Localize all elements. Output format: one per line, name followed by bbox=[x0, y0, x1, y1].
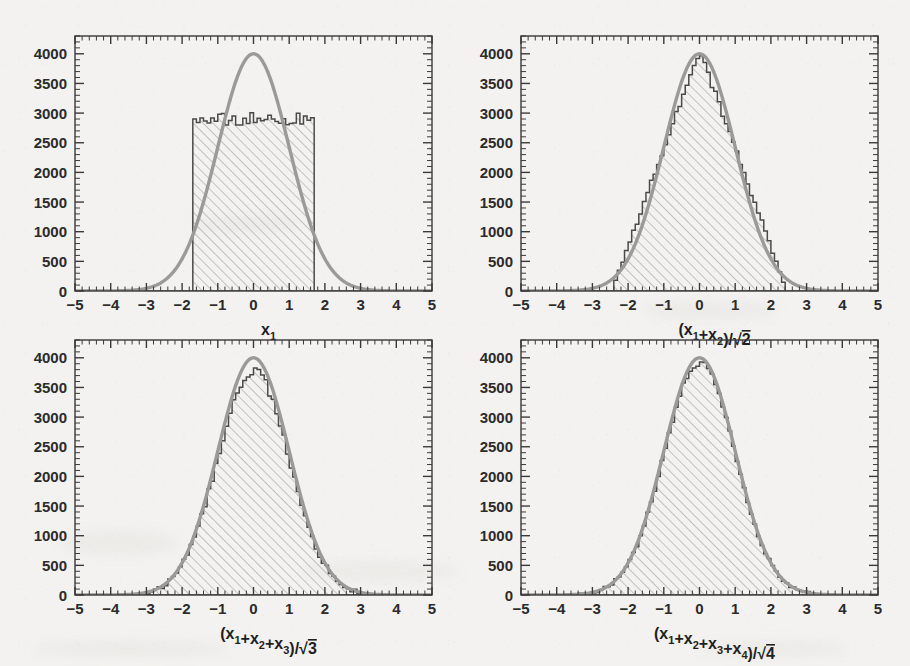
x-axis-tick-label: 5 bbox=[874, 296, 882, 313]
y-axis-tick-label: 0 bbox=[505, 587, 513, 604]
x-axis-tick-label: 5 bbox=[428, 296, 436, 313]
y-axis-tick-label: 500 bbox=[488, 557, 513, 574]
x-axis-tick-label: 5 bbox=[428, 600, 436, 617]
y-axis-tick-label: 1500 bbox=[480, 498, 513, 515]
y-axis-tick-label: 2500 bbox=[34, 438, 67, 455]
x-axis-tick-label: 1 bbox=[285, 296, 293, 313]
x-axis-tick-label: 4 bbox=[838, 600, 847, 617]
x-axis-tick-label: −1 bbox=[209, 600, 226, 617]
x-axis-tick-label: 2 bbox=[767, 296, 775, 313]
x-axis-tick-label: −5 bbox=[512, 600, 529, 617]
y-axis-tick-label: 1500 bbox=[34, 498, 67, 515]
y-axis-tick-label: 1000 bbox=[480, 223, 513, 240]
y-axis-tick-label: 2500 bbox=[34, 134, 67, 151]
y-axis-tick-label: 500 bbox=[42, 557, 67, 574]
y-axis-tick-label: 3000 bbox=[34, 105, 67, 122]
x-axis-tick-label: −3 bbox=[138, 296, 155, 313]
y-axis-tick-label: 0 bbox=[59, 587, 67, 604]
four-panel-clt-figure: −5−4−3−2−1012345050010001500200025003000… bbox=[0, 0, 910, 666]
y-axis-tick-label: 2500 bbox=[480, 134, 513, 151]
x-axis-tick-label: −4 bbox=[548, 296, 566, 313]
x-axis-tick-label: 3 bbox=[356, 600, 364, 617]
y-axis-tick-label: 1000 bbox=[34, 223, 67, 240]
y-axis-tick-label: 4000 bbox=[480, 349, 513, 366]
y-axis-tick-label: 500 bbox=[488, 253, 513, 270]
x-axis-tick-label: 1 bbox=[285, 600, 293, 617]
x-axis-tick-label: 0 bbox=[695, 296, 703, 313]
x-axis-tick-label: −4 bbox=[102, 600, 120, 617]
y-axis-tick-label: 1000 bbox=[480, 527, 513, 544]
x-axis-tick-label: 3 bbox=[802, 600, 810, 617]
x-axis-tick-label: −5 bbox=[66, 296, 83, 313]
y-axis-tick-label: 4000 bbox=[34, 349, 67, 366]
y-axis-tick-label: 2000 bbox=[34, 468, 67, 485]
x-axis-tick-label: 1 bbox=[731, 600, 739, 617]
y-axis-tick-label: 3000 bbox=[34, 409, 67, 426]
x-axis-tick-label: 0 bbox=[249, 296, 257, 313]
x-axis-tick-label: 2 bbox=[321, 600, 329, 617]
x-axis-tick-label: 3 bbox=[802, 296, 810, 313]
x-axis-tick-label: −2 bbox=[620, 296, 637, 313]
y-axis-tick-label: 0 bbox=[505, 283, 513, 300]
y-axis-tick-label: 1000 bbox=[34, 527, 67, 544]
x-axis-tick-label: −3 bbox=[584, 296, 601, 313]
x-axis-tick-label: 2 bbox=[321, 296, 329, 313]
x-axis-tick-label: −4 bbox=[548, 600, 566, 617]
x-axis-tick-label: −2 bbox=[620, 600, 637, 617]
x-axis-tick-label: −1 bbox=[655, 600, 672, 617]
x-axis-tick-label: −2 bbox=[174, 296, 191, 313]
x-axis-tick-label: 0 bbox=[249, 600, 257, 617]
y-axis-tick-label: 4000 bbox=[480, 45, 513, 62]
y-axis-tick-label: 1500 bbox=[480, 194, 513, 211]
y-axis-tick-label: 3000 bbox=[480, 105, 513, 122]
y-axis-tick-label: 3500 bbox=[480, 75, 513, 92]
x-axis-tick-label: −3 bbox=[584, 600, 601, 617]
y-axis-tick-label: 4000 bbox=[34, 45, 67, 62]
y-axis-tick-label: 3500 bbox=[480, 379, 513, 396]
x-axis-tick-label: −1 bbox=[209, 296, 226, 313]
y-axis-tick-label: 0 bbox=[59, 283, 67, 300]
x-axis-tick-label: 1 bbox=[731, 296, 739, 313]
x-axis-tick-label: −3 bbox=[138, 600, 155, 617]
x-axis-tick-label: 5 bbox=[874, 600, 882, 617]
x-axis-tick-label: −4 bbox=[102, 296, 120, 313]
x-axis-tick-label: −5 bbox=[512, 296, 529, 313]
y-axis-tick-label: 2000 bbox=[34, 164, 67, 181]
x-axis-tick-label: 4 bbox=[392, 600, 401, 617]
x-axis-tick-label: −1 bbox=[655, 296, 672, 313]
y-axis-tick-label: 2000 bbox=[480, 164, 513, 181]
x-axis-tick-label: 4 bbox=[838, 296, 847, 313]
x-axis-tick-label: −5 bbox=[66, 600, 83, 617]
y-axis-tick-label: 1500 bbox=[34, 194, 67, 211]
y-axis-tick-label: 3500 bbox=[34, 75, 67, 92]
y-axis-tick-label: 2500 bbox=[480, 438, 513, 455]
x-axis-tick-label: −2 bbox=[174, 600, 191, 617]
y-axis-tick-label: 3500 bbox=[34, 379, 67, 396]
x-axis-tick-label: 2 bbox=[767, 600, 775, 617]
x-axis-tick-label: 0 bbox=[695, 600, 703, 617]
y-axis-tick-label: 3000 bbox=[480, 409, 513, 426]
x-axis-tick-label: 3 bbox=[356, 296, 364, 313]
y-axis-tick-label: 2000 bbox=[480, 468, 513, 485]
x-axis-tick-label: 4 bbox=[392, 296, 401, 313]
y-axis-tick-label: 500 bbox=[42, 253, 67, 270]
